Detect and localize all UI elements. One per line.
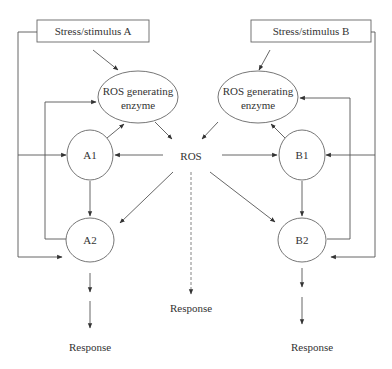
ros-node-label: ROS bbox=[180, 150, 201, 162]
edge-stimulus-a-outer bbox=[18, 32, 62, 257]
edge-a1-to-enzyme-a bbox=[107, 124, 124, 138]
edge-ros-to-a2 bbox=[120, 172, 173, 223]
enzyme-b-node: ROS generating enzyme bbox=[218, 71, 298, 123]
edge-ros-to-b2 bbox=[210, 172, 275, 222]
stimulus-b-label: Stress/stimulus B bbox=[273, 25, 350, 37]
node-a2: A2 bbox=[66, 218, 114, 262]
edge-stimulus-b-to-enzyme-b bbox=[259, 50, 270, 70]
node-b1: B1 bbox=[279, 130, 325, 180]
enzyme-a-line1: ROS generating bbox=[103, 85, 174, 97]
enzyme-b-line2: enzyme bbox=[241, 99, 275, 111]
edge-stimulus-a-to-enzyme-a bbox=[93, 50, 118, 70]
node-a1-label: A1 bbox=[83, 149, 96, 161]
edge-stimulus-b-outer bbox=[331, 32, 375, 257]
enzyme-b-line1: ROS generating bbox=[223, 85, 294, 97]
node-b1-label: B1 bbox=[296, 149, 309, 161]
response-center-label: Response bbox=[170, 302, 212, 314]
edge-enzyme-a-to-ros bbox=[155, 122, 172, 139]
edge-enzyme-b-to-ros bbox=[202, 122, 218, 139]
edge-b1-to-enzyme-b bbox=[271, 124, 285, 138]
stimulus-a-label: Stress/stimulus A bbox=[55, 25, 132, 37]
node-a2-label: A2 bbox=[83, 234, 96, 246]
node-a1: A1 bbox=[67, 130, 113, 180]
enzyme-a-node: ROS generating enzyme bbox=[98, 71, 178, 123]
response-right-label: Response bbox=[291, 341, 333, 353]
response-left-label: Response bbox=[69, 341, 111, 353]
stimulus-a-box: Stress/stimulus A bbox=[37, 20, 149, 42]
enzyme-a-line2: enzyme bbox=[121, 99, 155, 111]
node-b2-label: B2 bbox=[296, 234, 309, 246]
stimulus-b-box: Stress/stimulus B bbox=[251, 20, 371, 42]
node-b2: B2 bbox=[278, 218, 326, 262]
cut-off-caption bbox=[10, 362, 390, 369]
ros-signalling-diagram: Stress/stimulus A Stress/stimulus B ROS … bbox=[0, 0, 392, 369]
